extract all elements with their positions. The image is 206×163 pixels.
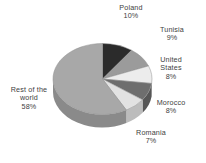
pie-chart: Poland 10% Tunisia 9% United States 8% M… (0, 0, 206, 163)
pie-slices (53, 44, 152, 115)
slice-label-tunisia-percent: 9% (150, 34, 194, 42)
slice-label-morocco: Morocco 8% (148, 99, 194, 116)
slice-label-poland: Poland 10% (108, 4, 154, 21)
slice-label-united-states: United States 8% (148, 56, 194, 81)
slice-label-rest-of-the-world: Rest of the world 58% (3, 86, 55, 111)
slice-label-romania-percent: 7% (128, 137, 174, 145)
slice-label-tunisia: Tunisia 9% (150, 26, 194, 43)
slice-label-rest-percent: 58% (3, 103, 55, 111)
slice-label-poland-percent: 10% (108, 12, 154, 20)
slice-label-romania: Romania 7% (128, 129, 174, 146)
slice-label-morocco-percent: 8% (148, 107, 194, 115)
slice-label-united-states-percent: 8% (148, 73, 194, 81)
